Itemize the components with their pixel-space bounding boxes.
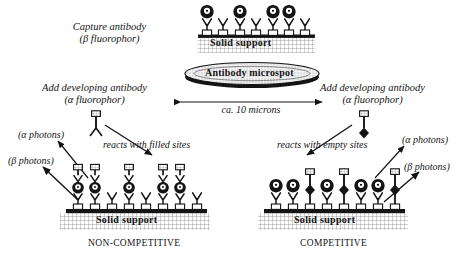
panel-caption-competitive: COMPETITIVE xyxy=(300,238,367,248)
add-dev-left-line1: Add developing antibody xyxy=(22,82,167,94)
reacts-with-filled-sites-label: reacts with filled sites xyxy=(103,139,190,151)
alpha-photons-left-label: (α photons) xyxy=(18,129,64,141)
left-developing-antibody-glyph xyxy=(90,111,102,136)
panel-caption-non-competitive: NON-COMPETITIVE xyxy=(88,238,180,248)
top-panel-antibodies xyxy=(200,5,309,35)
competitive-occupied-site xyxy=(339,169,349,210)
antibody-microspot-label: Antibody microspot xyxy=(205,67,294,78)
beta-photons-right-label: (β photons) xyxy=(404,161,450,173)
add-developing-antibody-right-label: Add developing antibody (α fluorophor) xyxy=(300,82,445,107)
add-dev-left-line2: (α fluorophor) xyxy=(22,94,167,106)
left-panel-assemblies xyxy=(72,164,201,209)
diagram-canvas: Capture antibody (β fluorophor) Add deve… xyxy=(0,0,463,258)
scale-bar-label: ca. 10 microns xyxy=(201,104,301,116)
add-developing-antibody-left-label: Add developing antibody (α fluorophor) xyxy=(22,82,167,107)
capture-antibody-line1: Capture antibody xyxy=(52,21,167,33)
add-dev-right-line1: Add developing antibody xyxy=(300,82,445,94)
left-beta-photon-arrow xyxy=(43,167,78,200)
add-dev-right-line2: (α fluorophor) xyxy=(300,94,445,106)
competitive-occupied-site xyxy=(305,169,315,210)
solid-support-left-label: Solid support xyxy=(96,214,157,225)
competitive-occupied-site xyxy=(390,169,400,210)
reacts-with-empty-sites-label: reacts with empty sites xyxy=(277,139,367,151)
left-alpha-photon-arrow xyxy=(58,141,88,178)
alpha-photons-right-label: (α photons) xyxy=(402,134,448,146)
capture-antibody-label: Capture antibody (β fluorophor) xyxy=(52,21,167,46)
solid-support-right-label: Solid support xyxy=(294,214,355,225)
right-panel-assemblies xyxy=(269,169,400,210)
right-developing-antibody-glyph xyxy=(359,111,369,139)
solid-support-top-label: Solid support xyxy=(210,37,271,48)
beta-photons-left-label: (β photons) xyxy=(8,155,54,167)
capture-antibody-line2: (β fluorophor) xyxy=(52,33,167,45)
right-beta-photon-arrow xyxy=(384,172,419,202)
